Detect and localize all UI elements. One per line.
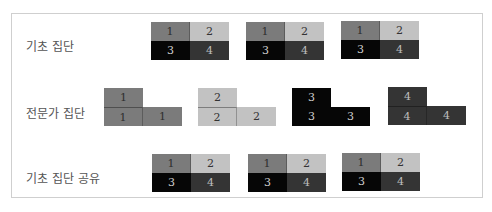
member-cell-2: 2 (190, 22, 229, 41)
member-cell-1: 1 (246, 22, 285, 41)
member-cell-4: 4 (285, 41, 324, 60)
expert-cell: 4 (427, 106, 466, 125)
member-cell-1: 1 (151, 22, 190, 41)
member-cell-1: 1 (152, 154, 191, 173)
member-cell-3: 3 (341, 40, 380, 59)
expert-cell: 4 (388, 87, 427, 106)
expert-cell: 1 (104, 88, 143, 107)
member-cell-2: 2 (191, 154, 230, 173)
row-label-basic-group-shared: 기초 집단 공유 (26, 169, 100, 186)
row-label-basic-group: 기초 집단 (26, 37, 74, 54)
member-cell-4: 4 (190, 41, 229, 60)
member-cell-2: 2 (285, 22, 324, 41)
member-cell-3: 3 (342, 172, 381, 191)
member-cell-1: 1 (342, 153, 381, 172)
expert-cell: 1 (143, 107, 182, 126)
member-cell-4: 4 (381, 172, 420, 191)
member-cell-2: 2 (381, 153, 420, 172)
expert-cell: 3 (331, 107, 370, 126)
expert-cell: 2 (237, 107, 276, 126)
member-cell-4: 4 (380, 40, 419, 59)
member-cell-4: 4 (287, 173, 326, 192)
member-cell-4: 4 (191, 173, 230, 192)
member-cell-1: 1 (341, 21, 380, 40)
member-cell-3: 3 (151, 41, 190, 60)
member-cell-3: 3 (246, 41, 285, 60)
expert-cell: 2 (198, 107, 237, 126)
row-label-expert-group: 전문가 집단 (26, 104, 85, 121)
expert-cell: 4 (388, 106, 427, 125)
expert-cell: 3 (292, 107, 331, 126)
member-cell-2: 2 (287, 154, 326, 173)
member-cell-3: 3 (152, 173, 191, 192)
member-cell-2: 2 (380, 21, 419, 40)
member-cell-3: 3 (248, 173, 287, 192)
expert-cell: 3 (292, 88, 331, 107)
expert-cell: 2 (198, 88, 237, 107)
expert-cell: 1 (104, 107, 143, 126)
member-cell-1: 1 (248, 154, 287, 173)
